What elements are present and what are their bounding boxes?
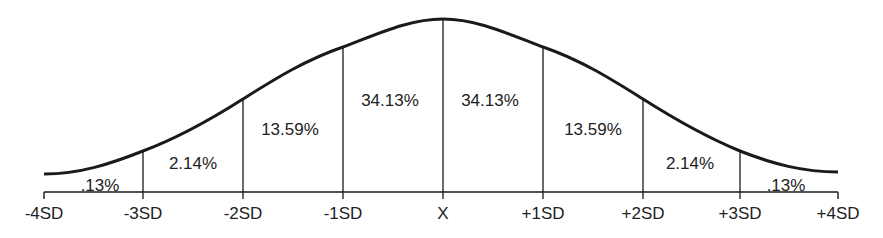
normal-distribution-chart: [0, 0, 883, 238]
band-label-minus2-minus1: 13.59%: [261, 121, 319, 138]
tick-label-minus-2sd: -2SD: [224, 205, 263, 222]
band-label-plus2-plus3: 2.14%: [666, 155, 714, 172]
tick-label-plus-2sd: +2SD: [622, 205, 665, 222]
tick-label-minus-3sd: -3SD: [124, 205, 163, 222]
band-label-minus3-minus2: 2.14%: [169, 155, 217, 172]
band-label-minus1-mean: 34.13%: [361, 92, 419, 109]
band-label-minus4-minus3: .13%: [81, 177, 120, 194]
tick-label-plus-3sd: +3SD: [719, 205, 762, 222]
tick-label-minus-1sd: -1SD: [324, 205, 363, 222]
tick-label-mean: X: [437, 205, 448, 222]
tick-label-plus-4sd: +4SD: [817, 205, 860, 222]
band-label-mean-plus1: 34.13%: [461, 92, 519, 109]
band-label-plus3-plus4: .13%: [767, 177, 806, 194]
bell-curve: [44, 19, 838, 174]
tick-label-plus-1sd: +1SD: [522, 205, 565, 222]
band-label-plus1-plus2: 13.59%: [564, 121, 622, 138]
tick-label-minus-4sd: -4SD: [25, 205, 64, 222]
